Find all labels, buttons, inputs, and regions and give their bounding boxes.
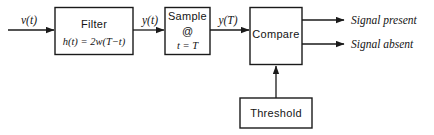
block-filter[interactable] bbox=[55, 8, 133, 55]
block-diagram-canvas: Filter h(t) = 2w(T−t) Sample @ t = T Com… bbox=[0, 0, 434, 135]
block-filter-label: Filter bbox=[81, 18, 107, 30]
signal-label-filter-output: y(t) bbox=[141, 14, 158, 27]
block-threshold-label: Threshold bbox=[250, 107, 302, 119]
output-label-signal-present: Signal present bbox=[351, 14, 417, 27]
output-label-signal-absent: Signal absent bbox=[351, 38, 414, 51]
block-sample-label: Sample bbox=[168, 10, 207, 22]
signal-label-sample-output: y(T) bbox=[217, 14, 237, 27]
block-sample-condition: t = T bbox=[177, 40, 199, 51]
diagram-svg: Filter h(t) = 2w(T−t) Sample @ t = T Com… bbox=[0, 0, 434, 135]
block-compare-label: Compare bbox=[252, 28, 299, 40]
signal-label-input: v(t) bbox=[21, 14, 37, 27]
block-sample-at-icon: @ bbox=[182, 25, 193, 37]
block-filter-formula: h(t) = 2w(T−t) bbox=[63, 36, 126, 48]
